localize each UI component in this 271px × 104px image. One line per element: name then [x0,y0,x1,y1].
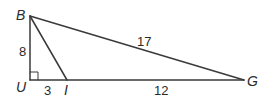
length-label-BG: 17 [137,35,151,48]
vertex-label-I: I [64,83,68,97]
length-label-IG: 12 [154,84,168,97]
right-angle-marker [30,72,38,80]
length-label-UI: 3 [44,84,51,97]
vertex-label-B: B [16,8,25,22]
vertex-label-G: G [247,74,258,88]
triangle-diagram [0,0,271,104]
vertex-label-U: U [16,80,26,94]
length-label-BU: 8 [19,45,26,58]
